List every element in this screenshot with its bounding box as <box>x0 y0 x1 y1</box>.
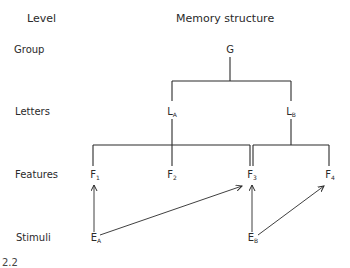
arrow-ea-to-f3 <box>100 186 242 235</box>
arrow-eb-to-f4 <box>258 186 324 235</box>
node-eb: EB <box>248 232 258 247</box>
node-f3: F3 <box>247 169 257 184</box>
figure-number-fragment: 2.2 <box>2 257 18 268</box>
node-ea: EA <box>91 232 101 247</box>
node-f4: F4 <box>325 169 335 184</box>
node-f2: F2 <box>167 169 177 184</box>
node-lb: LB <box>286 106 296 121</box>
node-la: LA <box>167 106 177 121</box>
node-f1: F1 <box>90 169 100 184</box>
node-g: G <box>226 44 234 56</box>
